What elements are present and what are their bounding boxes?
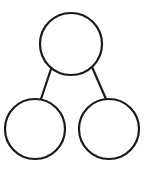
node-root [40, 13, 102, 75]
tree-nodes [5, 13, 139, 159]
node-circle [40, 13, 102, 75]
node-circle [5, 99, 65, 159]
node-right-child [79, 99, 139, 159]
node-left-child [5, 99, 65, 159]
edge-root-to-left-child [41, 69, 51, 99]
edge-root-to-right-child [92, 67, 106, 99]
tree-diagram [0, 0, 152, 177]
node-circle [79, 99, 139, 159]
